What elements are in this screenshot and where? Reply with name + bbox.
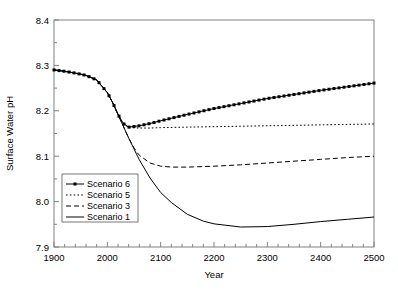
series-marker xyxy=(203,109,206,112)
series-marker xyxy=(248,100,251,103)
series-marker xyxy=(303,91,306,94)
surface-water-ph-line-chart: 19002000210022002300240025007.98.08.18.2… xyxy=(0,0,398,295)
series-marker xyxy=(213,107,216,110)
series-marker xyxy=(208,108,211,111)
y-tick-label: 8.4 xyxy=(36,15,49,26)
series-marker xyxy=(148,122,151,125)
series-marker xyxy=(333,87,336,90)
y-tick-label: 8.1 xyxy=(36,151,49,162)
series-marker xyxy=(323,88,326,91)
y-axis-title: Surface Water pH xyxy=(4,96,15,171)
x-tick-label: 1900 xyxy=(43,252,64,263)
series-marker xyxy=(188,113,191,116)
series-marker xyxy=(143,123,146,126)
series-marker xyxy=(228,104,231,107)
series-marker xyxy=(368,82,371,85)
series-marker xyxy=(198,110,201,113)
legend-label: Scenario 5 xyxy=(87,190,130,200)
chart-background xyxy=(0,0,398,295)
series-marker xyxy=(293,93,296,96)
chart-legend[interactable]: Scenario 6Scenario 5Scenario 3Scenario 1 xyxy=(62,174,138,222)
legend-label: Scenario 1 xyxy=(87,212,130,222)
x-tick-label: 2000 xyxy=(97,252,118,263)
series-marker xyxy=(348,85,351,88)
series-marker xyxy=(338,86,341,89)
legend-label: Scenario 3 xyxy=(87,201,130,211)
series-marker xyxy=(313,90,316,93)
series-marker xyxy=(178,115,181,118)
series-marker xyxy=(193,111,196,114)
x-tick-label: 2100 xyxy=(150,252,171,263)
series-marker xyxy=(238,102,241,105)
series-marker xyxy=(358,84,361,87)
series-marker xyxy=(253,100,256,103)
series-marker xyxy=(218,106,221,109)
series-marker xyxy=(283,94,286,97)
series-marker xyxy=(233,103,236,106)
series-marker xyxy=(153,121,156,124)
series-marker xyxy=(328,88,331,91)
series-marker xyxy=(278,95,281,98)
x-tick-label: 2300 xyxy=(257,252,278,263)
series-marker xyxy=(288,94,291,97)
series-marker xyxy=(243,101,246,104)
series-marker xyxy=(168,117,171,120)
series-marker xyxy=(138,124,141,127)
series-marker xyxy=(223,105,226,108)
y-tick-label: 8.0 xyxy=(36,196,49,207)
series-marker xyxy=(183,114,186,117)
series-marker xyxy=(173,116,176,119)
x-axis-title: Year xyxy=(204,269,223,280)
series-marker xyxy=(163,118,166,121)
legend-marker xyxy=(74,183,77,186)
series-marker xyxy=(308,91,311,94)
series-marker xyxy=(258,99,261,102)
series-marker xyxy=(298,92,301,95)
series-marker xyxy=(373,82,376,85)
series-marker xyxy=(353,84,356,87)
x-tick-label: 2400 xyxy=(310,252,331,263)
series-marker xyxy=(158,120,161,123)
y-tick-label: 8.2 xyxy=(36,105,49,116)
series-marker xyxy=(363,83,366,86)
chart-figure: 19002000210022002300240025007.98.08.18.2… xyxy=(0,0,398,295)
series-marker xyxy=(263,98,266,101)
y-tick-label: 7.9 xyxy=(36,242,49,253)
series-marker xyxy=(318,89,321,92)
x-tick-label: 2200 xyxy=(203,252,224,263)
y-tick-label: 8.3 xyxy=(36,60,49,71)
legend-label: Scenario 6 xyxy=(87,179,130,189)
series-marker xyxy=(268,97,271,100)
series-marker xyxy=(343,86,346,89)
x-tick-label: 2500 xyxy=(363,252,384,263)
series-marker xyxy=(273,96,276,99)
